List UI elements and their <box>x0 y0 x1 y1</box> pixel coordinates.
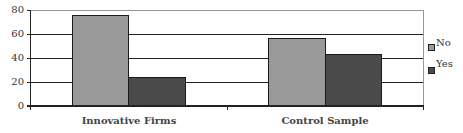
x-category-label-control-sample: Control Sample <box>250 115 400 126</box>
legend-label-yes: Yes <box>436 58 453 69</box>
y-tick-label-80: 80 <box>4 5 24 15</box>
x-axis <box>27 105 424 107</box>
legend-label-no: No <box>436 37 451 48</box>
bar-chart: 80 60 40 20 0 Innovative Firms Control S… <box>0 0 463 133</box>
x-tick <box>423 105 424 110</box>
y-tick <box>27 34 31 35</box>
y-tick <box>27 82 31 83</box>
y-tick <box>27 10 31 11</box>
y-tick <box>27 58 31 59</box>
legend-swatch-yes <box>428 67 435 74</box>
x-tick <box>30 105 31 110</box>
bar-control-no <box>268 38 326 106</box>
plot-top-border <box>30 10 423 11</box>
y-tick-label-60: 60 <box>4 29 24 39</box>
bar-innovative-yes <box>128 77 186 106</box>
y-tick-label-0: 0 <box>4 101 24 111</box>
plot-right-border <box>423 10 424 106</box>
bar-control-yes <box>325 54 382 106</box>
x-tick <box>227 105 228 110</box>
bar-innovative-no <box>72 15 129 106</box>
y-tick-label-20: 20 <box>4 77 24 87</box>
legend-swatch-no <box>428 44 435 51</box>
y-tick-label-40: 40 <box>4 53 24 63</box>
x-category-label-innovative-firms: Innovative Firms <box>54 115 204 126</box>
